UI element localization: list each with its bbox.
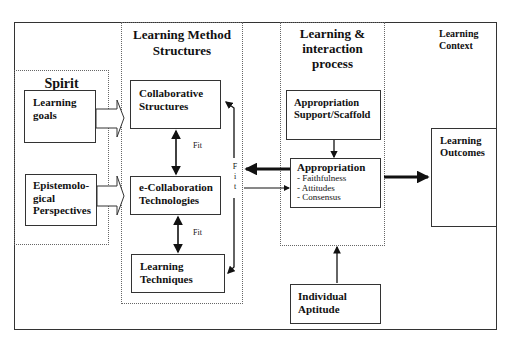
arrows-overlay: [0, 0, 505, 340]
block-arrow-epistemological: [97, 176, 124, 215]
block-arrow-learning-goals: [96, 100, 124, 137]
